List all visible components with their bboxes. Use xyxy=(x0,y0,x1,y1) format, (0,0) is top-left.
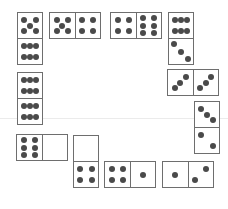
pip-icon xyxy=(89,166,95,172)
pip-icon xyxy=(151,30,157,36)
pip-icon xyxy=(33,114,39,120)
domino-half-6 xyxy=(136,13,162,38)
pip-icon xyxy=(172,85,178,91)
domino-half-4 xyxy=(105,162,130,187)
pip-icon xyxy=(126,17,132,23)
pip-icon xyxy=(151,15,157,21)
pip-icon xyxy=(54,28,60,34)
domino-3-2[interactable] xyxy=(194,101,220,154)
pip-icon xyxy=(198,132,204,138)
pip-icon xyxy=(171,41,177,47)
pip-icon xyxy=(59,23,65,29)
pip-icon xyxy=(21,17,27,23)
domino-half-3 xyxy=(195,102,219,127)
domino-half-3 xyxy=(169,38,193,64)
domino-half-0 xyxy=(42,135,68,160)
pip-icon xyxy=(178,49,184,55)
pip-icon xyxy=(79,28,85,34)
domino-6-0[interactable] xyxy=(16,134,68,161)
pip-icon xyxy=(65,28,71,34)
pip-icon xyxy=(21,28,27,34)
pip-icon xyxy=(32,152,38,158)
pip-icon xyxy=(126,28,132,34)
pip-icon xyxy=(90,28,96,34)
pip-icon xyxy=(115,28,121,34)
pip-icon xyxy=(140,23,146,29)
domino-4-6[interactable] xyxy=(110,12,162,39)
domino-6-6[interactable] xyxy=(17,72,43,125)
pip-icon xyxy=(109,166,115,172)
pip-icon xyxy=(120,166,126,172)
pip-icon xyxy=(140,30,146,36)
pip-icon xyxy=(21,152,27,158)
pip-icon xyxy=(210,117,216,123)
pip-icon xyxy=(192,177,198,183)
pip-icon xyxy=(65,17,71,23)
pip-icon xyxy=(140,172,146,178)
domino-half-2 xyxy=(188,162,214,187)
domino-6-3[interactable] xyxy=(168,12,194,65)
domino-half-5 xyxy=(50,13,75,38)
domino-half-6 xyxy=(18,98,42,124)
pip-icon xyxy=(33,103,39,109)
domino-half-4 xyxy=(74,161,98,187)
pip-icon xyxy=(77,177,83,183)
pip-icon xyxy=(33,28,39,34)
domino-half-4 xyxy=(111,13,136,38)
domino-5-4[interactable] xyxy=(49,12,101,39)
pip-icon xyxy=(54,17,60,23)
pip-icon xyxy=(33,77,39,83)
pip-icon xyxy=(21,145,27,151)
pip-icon xyxy=(184,17,190,23)
pip-icon xyxy=(27,23,33,29)
pip-icon xyxy=(210,143,216,149)
pip-icon xyxy=(172,172,178,178)
domino-half-0 xyxy=(74,136,98,161)
domino-half-1 xyxy=(163,162,188,187)
pip-icon xyxy=(109,177,115,183)
pip-icon xyxy=(33,17,39,23)
pip-icon xyxy=(198,106,204,112)
pip-icon xyxy=(33,43,39,49)
pip-icon xyxy=(33,88,39,94)
pip-icon xyxy=(203,80,209,86)
pip-icon xyxy=(197,85,203,91)
pip-icon xyxy=(115,17,121,23)
pip-icon xyxy=(79,17,85,23)
pip-icon xyxy=(89,177,95,183)
pip-icon xyxy=(203,166,209,172)
domino-half-1 xyxy=(130,162,156,187)
domino-0-4[interactable] xyxy=(73,135,99,188)
domino-half-2 xyxy=(195,127,219,153)
pip-icon xyxy=(140,15,146,21)
pip-icon xyxy=(151,23,157,29)
domino-half-6 xyxy=(17,135,42,160)
pip-icon xyxy=(32,137,38,143)
domino-half-3 xyxy=(168,70,193,95)
domino-half-6 xyxy=(169,13,193,38)
pip-icon xyxy=(77,166,83,172)
domino-5-6[interactable] xyxy=(17,12,43,65)
domino-half-3 xyxy=(193,70,219,95)
pip-icon xyxy=(204,112,210,118)
domino-half-5 xyxy=(18,13,42,38)
domino-half-6 xyxy=(18,38,42,64)
pip-icon xyxy=(21,137,27,143)
domino-1-2[interactable] xyxy=(162,161,214,188)
pip-icon xyxy=(90,17,96,23)
pip-icon xyxy=(33,54,39,60)
pip-icon xyxy=(185,56,191,62)
domino-4-1[interactable] xyxy=(104,161,156,188)
domino-3-3[interactable] xyxy=(167,69,219,96)
domino-half-4 xyxy=(75,13,101,38)
domino-half-6 xyxy=(18,73,42,98)
pip-icon xyxy=(120,177,126,183)
pip-icon xyxy=(184,28,190,34)
pip-icon xyxy=(208,74,214,80)
pip-icon xyxy=(32,145,38,151)
pip-icon xyxy=(177,80,183,86)
pip-icon xyxy=(183,74,189,80)
